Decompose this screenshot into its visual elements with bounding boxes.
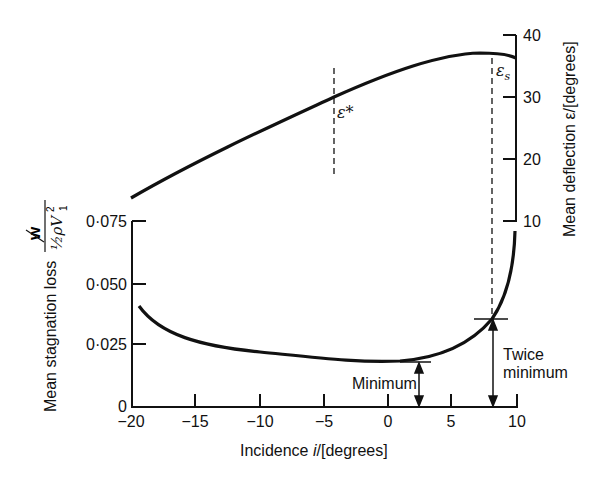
deflection-axis (503, 35, 516, 222)
svg-text:−10: −10 (246, 413, 273, 430)
minimum-label: Minimum (352, 375, 417, 392)
svg-text:w: w (25, 226, 44, 241)
deflection-curve (131, 53, 516, 198)
svg-text:−15: −15 (181, 413, 208, 430)
twice-minimum-label-1: Twice (503, 346, 544, 363)
eps-s-label: εs (496, 61, 511, 83)
x-axis-title: Incidence i/[degrees] (240, 442, 388, 459)
svg-text:0·050: 0·050 (86, 276, 127, 293)
svg-text:40: 40 (523, 27, 541, 44)
left-y-axis-title: Mean stagnation loss (42, 261, 59, 412)
svg-text:20: 20 (523, 151, 541, 168)
svg-text:1: 1 (58, 205, 69, 211)
twice-minimum-label-2: minimum (503, 364, 568, 381)
loss-curve (139, 231, 515, 361)
x-tick-labels: −20 −15 −10 −5 0 5 10 (117, 413, 526, 430)
svg-text:−20: −20 (117, 413, 144, 430)
svg-text:0: 0 (384, 413, 393, 430)
right-tick-labels: 10 20 30 40 (523, 27, 541, 230)
left-tick-labels: 0 0·025 0·050 0·075 (86, 213, 127, 415)
svg-text:−5: −5 (315, 413, 333, 430)
right-y-axis-title: Mean deflection ε/[degrees] (561, 41, 578, 237)
svg-text:10: 10 (523, 213, 541, 230)
svg-text:½ρV: ½ρV (48, 214, 66, 250)
svg-text:5: 5 (447, 413, 456, 430)
left-y-fraction: w ½ρV 2 1 (25, 200, 69, 252)
svg-text:2: 2 (45, 206, 56, 212)
svg-text:10: 10 (508, 413, 526, 430)
svg-text:0: 0 (118, 398, 127, 415)
svg-text:0·025: 0·025 (86, 336, 127, 353)
svg-text:30: 30 (523, 89, 541, 106)
svg-text:0·075: 0·075 (86, 213, 127, 230)
loss-axes (131, 221, 518, 407)
chart-canvas: −20 −15 −10 −5 0 5 10 0 0·025 0·050 0·07… (0, 0, 603, 481)
eps-star-label: ε* (337, 103, 354, 122)
